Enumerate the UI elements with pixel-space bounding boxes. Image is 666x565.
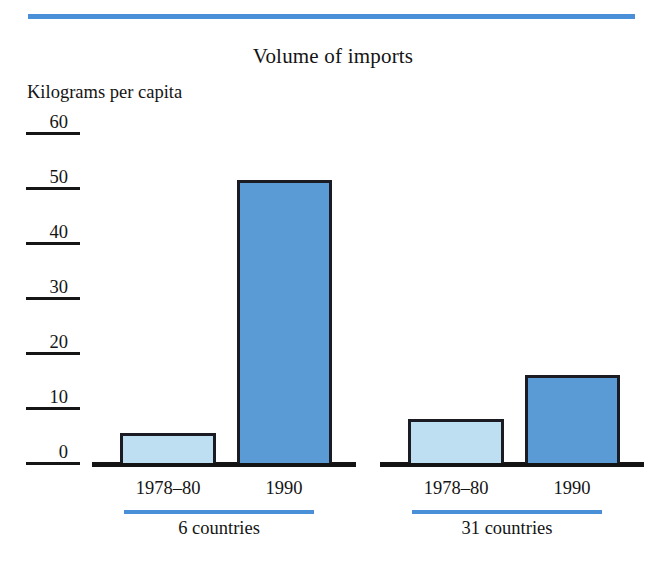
y-tick-label-0: 0 (26, 443, 68, 462)
y-tick-rule-0 (26, 462, 80, 465)
bar-group1-1978-80 (120, 433, 216, 463)
y-tick-label-20: 20 (26, 333, 68, 352)
plot-area: 60 50 40 30 20 10 0 19 (0, 0, 666, 565)
y-tick-rule-10 (26, 407, 80, 410)
bar-group2-1978-80 (408, 419, 504, 463)
y-tick-rule-50 (26, 187, 80, 190)
group-name-1: 6 countries (124, 518, 314, 539)
y-tick-label-30: 30 (26, 278, 68, 297)
y-tick-label-40: 40 (26, 223, 68, 242)
y-tick-rule-30 (26, 297, 80, 300)
y-tick-rule-40 (26, 242, 80, 245)
cat-label-group1-1990: 1990 (234, 478, 334, 499)
group-rule-1 (124, 510, 314, 514)
y-tick-rule-20 (26, 352, 80, 355)
group-name-2: 31 countries (412, 518, 602, 539)
chart-figure: Volume of imports Kilograms per capita 6… (0, 0, 666, 565)
y-tick-label-50: 50 (26, 168, 68, 187)
cat-label-group2-1978-80: 1978–80 (396, 478, 516, 499)
bar-group2-1990 (525, 375, 620, 463)
cat-label-group2-1990: 1990 (522, 478, 622, 499)
cat-label-group1-1978-80: 1978–80 (108, 478, 228, 499)
y-tick-label-10: 10 (26, 388, 68, 407)
y-tick-rule-60 (26, 132, 80, 135)
y-tick-label-60: 60 (26, 113, 68, 132)
group-rule-2 (412, 510, 602, 514)
bar-group1-1990 (237, 180, 332, 463)
